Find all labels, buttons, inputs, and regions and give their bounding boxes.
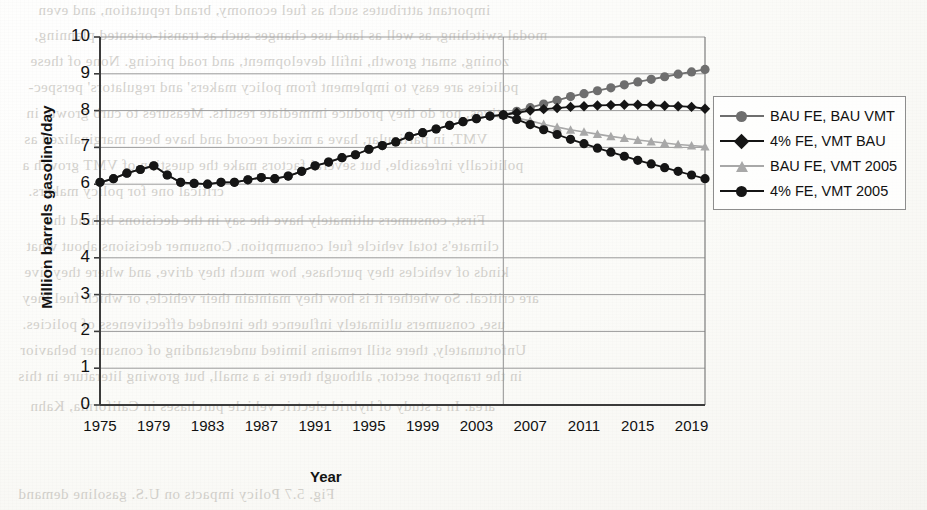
data-point-marker <box>687 67 696 76</box>
legend-key-circle-icon <box>720 109 764 123</box>
data-point-marker <box>351 150 360 159</box>
data-point-marker <box>566 92 575 101</box>
data-point-marker <box>190 179 199 188</box>
data-point-marker <box>700 174 709 183</box>
data-point-marker <box>163 170 172 179</box>
data-point-marker <box>593 86 602 95</box>
data-point-marker <box>606 100 616 110</box>
legend-key-diamond-icon <box>720 134 764 148</box>
x-tick-label: 2019 <box>666 417 718 434</box>
series-historical <box>95 110 508 188</box>
x-tick-label: 2015 <box>612 417 664 434</box>
x-tick-label: 1987 <box>235 417 287 434</box>
data-point-marker <box>579 139 588 148</box>
data-point-marker <box>445 121 454 130</box>
y-tick-label: 1 <box>48 357 90 377</box>
data-point-marker <box>579 101 589 111</box>
y-tick-label: 0 <box>48 394 90 414</box>
legend-marker-diamond-icon <box>734 133 750 149</box>
y-tick-label: 9 <box>48 63 90 83</box>
x-tick-label: 1983 <box>182 417 234 434</box>
legend-item: BAU FE, VMT 2005 <box>720 153 897 178</box>
data-point-marker <box>243 175 252 184</box>
data-point-marker <box>606 148 615 157</box>
legend-item-label: 4% FE, VMT BAU <box>770 133 886 149</box>
data-point-marker <box>606 83 615 92</box>
data-point-marker <box>324 158 333 167</box>
chart-legend: BAU FE, BAU VMT4% FE, VMT BAUBAU FE, VMT… <box>713 96 906 210</box>
series-bau-fe-vmt-2005 <box>499 110 710 150</box>
legend-item: 4% FE, VMT BAU <box>720 128 897 153</box>
data-point-marker <box>109 174 118 183</box>
x-tick-label: 1995 <box>343 417 395 434</box>
data-point-marker <box>472 114 481 123</box>
y-tick-label: 10 <box>48 26 90 46</box>
data-point-marker <box>659 101 669 111</box>
y-tick-label: 2 <box>48 320 90 340</box>
data-point-marker <box>176 178 185 187</box>
data-point-marker <box>660 163 669 172</box>
x-tick-label: 2011 <box>558 417 610 434</box>
data-point-marker <box>647 159 656 168</box>
x-tick-label: 1999 <box>397 417 449 434</box>
series-line <box>503 115 705 147</box>
data-point-marker <box>122 169 131 178</box>
legend-marker-triangle-icon <box>736 161 748 172</box>
legend-marker-circle-icon <box>736 111 747 122</box>
data-point-marker <box>619 100 629 110</box>
legend-item: 4% FE, VMT 2005 <box>720 178 897 203</box>
x-tick-label: 1975 <box>74 417 126 434</box>
data-point-marker <box>512 115 521 124</box>
x-tick-label: 2003 <box>450 417 502 434</box>
data-point-marker <box>620 80 629 89</box>
data-point-marker <box>284 172 293 181</box>
data-point-marker <box>674 167 683 176</box>
data-point-marker <box>458 117 467 126</box>
data-point-marker <box>674 70 683 79</box>
x-axis-title: Year <box>310 468 342 485</box>
data-point-marker <box>136 165 145 174</box>
legend-marker-circle-icon <box>736 186 747 197</box>
data-point-marker <box>311 161 320 170</box>
data-point-marker <box>95 178 104 187</box>
data-point-marker <box>700 65 709 74</box>
data-point-marker <box>270 174 279 183</box>
data-point-marker <box>633 100 643 110</box>
data-point-marker <box>378 141 387 150</box>
data-point-marker <box>592 100 602 110</box>
data-point-marker <box>700 104 710 114</box>
data-point-marker <box>216 178 225 187</box>
legend-item-label: 4% FE, VMT 2005 <box>770 183 888 199</box>
gasoline-demand-chart: Million barrels gasoline/day Year 012345… <box>0 0 927 510</box>
data-point-marker <box>552 103 562 113</box>
data-point-marker <box>418 128 427 137</box>
data-point-marker <box>485 112 494 121</box>
data-point-marker <box>526 120 535 129</box>
y-tick-label: 6 <box>48 173 90 193</box>
x-tick-label: 2007 <box>504 417 556 434</box>
data-point-marker <box>687 170 696 179</box>
legend-item-label: BAU FE, VMT 2005 <box>770 158 897 174</box>
y-tick-label: 7 <box>48 136 90 156</box>
data-point-marker <box>633 156 642 165</box>
data-point-marker <box>647 75 656 84</box>
x-tick-label: 1991 <box>289 417 341 434</box>
data-point-marker <box>646 100 656 110</box>
series-bau-fe-bau-vmt <box>95 65 709 189</box>
legend-key-circle-icon <box>720 184 764 198</box>
y-tick-label: 5 <box>48 210 90 230</box>
data-point-marker <box>553 130 562 139</box>
data-point-marker <box>620 152 629 161</box>
data-point-marker <box>149 161 158 170</box>
data-point-marker <box>593 144 602 153</box>
data-point-marker <box>499 110 508 119</box>
data-point-marker <box>364 145 373 154</box>
data-point-marker <box>230 178 239 187</box>
data-point-marker <box>391 137 400 146</box>
legend-item: BAU FE, BAU VMT <box>720 103 897 128</box>
y-tick-label: 4 <box>48 247 90 267</box>
x-tick-label: 1979 <box>128 417 180 434</box>
data-point-marker <box>633 77 642 86</box>
data-point-marker <box>432 124 441 133</box>
data-point-marker <box>405 132 414 141</box>
